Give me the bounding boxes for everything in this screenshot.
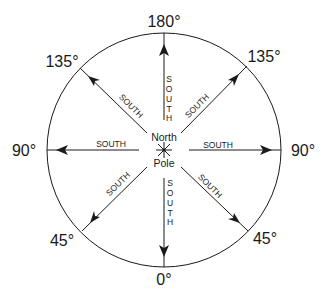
arrowhead-icon xyxy=(228,213,240,223)
polar-diagram: North Pole SOUTH SOUTH SOUTH SOUT xyxy=(0,0,327,295)
south-label-left: SOUTH xyxy=(96,139,126,149)
svg-text:S: S xyxy=(167,178,173,188)
degree-bottom: 0° xyxy=(156,271,171,288)
north-pole-star-icon xyxy=(156,142,172,158)
degree-bottom-right: 45° xyxy=(253,230,277,247)
arrow-down-left xyxy=(82,167,147,231)
svg-text:U: U xyxy=(166,94,172,104)
arrowhead-icon xyxy=(90,211,100,223)
south-label-up-right: SOUTH xyxy=(183,92,211,120)
degree-top: 180° xyxy=(147,13,180,30)
svg-text:O: O xyxy=(166,84,173,94)
pole-label: Pole xyxy=(153,157,174,169)
south-label-up-left: SOUTH xyxy=(117,92,145,120)
arrow-up-right xyxy=(181,66,247,133)
arrow-down-right xyxy=(181,167,248,231)
arrow-up-left xyxy=(80,68,147,133)
degree-top-left: 135° xyxy=(45,53,78,70)
south-label-right: SOUTH xyxy=(203,140,233,150)
south-label-vertical-bottom: S O U T H xyxy=(167,178,174,227)
svg-text:U: U xyxy=(167,198,173,208)
degree-bottom-left: 45° xyxy=(50,232,74,249)
svg-text:O: O xyxy=(167,188,174,198)
svg-text:S: S xyxy=(166,74,172,84)
svg-text:H: H xyxy=(166,113,172,123)
svg-text:H: H xyxy=(167,217,173,227)
degree-left: 90° xyxy=(12,142,36,159)
degree-top-right: 135° xyxy=(247,48,280,65)
south-label-down-left: SOUTH xyxy=(104,170,132,198)
degree-right: 90° xyxy=(291,142,315,159)
north-label: North xyxy=(151,131,177,143)
south-label-vertical-top: S O U T H xyxy=(166,74,173,123)
arrowhead-icon xyxy=(88,76,100,86)
